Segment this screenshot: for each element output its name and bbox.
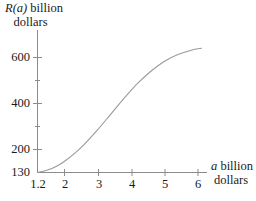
x-tick-label-5: 5	[150, 178, 180, 191]
y-axis-title-line2: dollars	[4, 16, 63, 30]
y-axis-title-unit: billion	[27, 1, 63, 15]
graph-figure: R(a) billion dollars a billion dollars 6…	[0, 0, 256, 201]
x-axis-title-line2: dollars	[211, 174, 253, 188]
x-tick-label-2: 2	[50, 178, 80, 191]
y-tick-label-200: 200	[0, 143, 30, 156]
x-tick-label-4: 4	[117, 178, 147, 191]
revenue-curve	[38, 48, 202, 172]
x-axis-title-unit: billion	[217, 159, 253, 173]
x-axis-title: a billion dollars	[211, 160, 253, 187]
y-tick-label-400: 400	[0, 97, 30, 110]
y-tick-label-600: 600	[0, 51, 30, 64]
x-tick-label-1.2: 1.2	[23, 178, 53, 191]
y-tick-label-130: 130	[0, 166, 30, 179]
x-tick-label-6: 6	[183, 178, 213, 191]
x-tick-label-3: 3	[84, 178, 114, 191]
y-axis-title-variable: R(a)	[5, 1, 27, 15]
y-axis-title: R(a) billion dollars	[4, 2, 63, 29]
